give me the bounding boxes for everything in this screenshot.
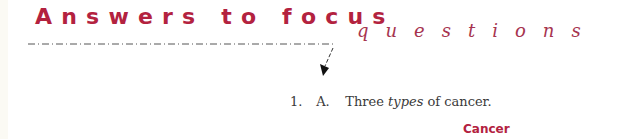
page-edge (0, 0, 8, 139)
arrow-down-icon (320, 40, 340, 80)
page-title: Answers to focus (35, 4, 395, 29)
section-heading: Cancer (463, 122, 510, 136)
question-text-emphasis: types (388, 94, 423, 109)
dash-dot-divider (28, 42, 338, 46)
question-item: 1. A. Three types of cancer. (290, 94, 492, 109)
page-subtitle: questions (357, 20, 598, 41)
question-letter: A. (316, 94, 341, 109)
question-text-after: of cancer. (423, 94, 491, 109)
question-number: 1. (290, 94, 312, 109)
question-text-before: Three (345, 94, 388, 109)
